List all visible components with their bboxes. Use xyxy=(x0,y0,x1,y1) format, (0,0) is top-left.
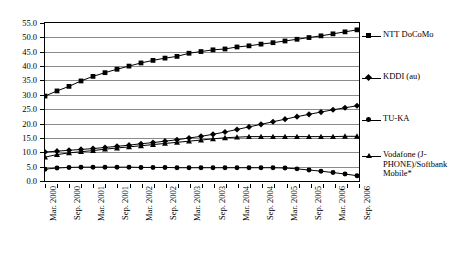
data-point-marker xyxy=(283,39,288,44)
y-tick-label: 0.0 xyxy=(26,177,37,186)
x-tick-label: Mar. 2006 xyxy=(338,186,347,221)
data-point-marker xyxy=(115,67,120,72)
data-point-marker xyxy=(246,124,252,130)
legend-item-3[interactable]: TU-KA xyxy=(362,114,409,125)
data-point-marker xyxy=(318,109,324,115)
data-point-marker xyxy=(343,172,348,177)
data-point-marker xyxy=(258,121,264,127)
data-point-marker xyxy=(211,47,216,52)
data-point-marker xyxy=(55,166,60,171)
data-point-marker xyxy=(139,61,144,66)
data-point-marker xyxy=(55,89,60,94)
x-tick-mark xyxy=(190,184,191,188)
data-point-marker xyxy=(79,79,84,84)
x-tick-mark xyxy=(45,184,46,188)
data-point-marker xyxy=(151,58,156,63)
legend-marker-circle-icon xyxy=(362,115,381,125)
legend-label: NTT DoCoMo xyxy=(381,30,434,40)
data-point-marker xyxy=(187,51,192,56)
data-point-marker xyxy=(45,149,48,155)
data-point-marker xyxy=(247,43,252,48)
legend-marker-triangle-icon xyxy=(362,151,381,161)
data-point-marker xyxy=(45,167,47,172)
y-axis: 0.05.010.015.020.025.030.035.040.045.050… xyxy=(0,22,42,182)
data-point-marker xyxy=(247,165,252,170)
legend-item-1[interactable]: NTT DoCoMo xyxy=(362,30,434,41)
legend-item-2[interactable]: KDDI (au) xyxy=(362,72,420,83)
legend-marker-diamond-icon xyxy=(362,73,381,83)
data-point-marker xyxy=(294,114,300,120)
x-tick-mark xyxy=(311,184,312,188)
data-point-marker xyxy=(103,165,108,170)
data-point-marker xyxy=(127,64,132,69)
data-point-marker xyxy=(175,165,180,170)
x-tick-label: Sep. 2001 xyxy=(121,186,130,220)
data-point-marker xyxy=(91,74,96,79)
data-point-marker xyxy=(331,31,336,36)
data-point-marker xyxy=(235,45,240,50)
x-tick-label: Sep. 2005 xyxy=(314,186,323,220)
data-point-marker xyxy=(355,27,359,32)
x-tick-mark xyxy=(202,184,203,188)
y-tick-label: 55.0 xyxy=(22,19,37,28)
x-tick-label: Sep. 2006 xyxy=(363,186,372,220)
y-tick-label: 30.0 xyxy=(22,91,37,100)
data-point-marker xyxy=(45,94,47,99)
data-point-marker xyxy=(222,129,228,135)
data-point-marker xyxy=(319,169,324,174)
data-point-marker xyxy=(306,111,312,117)
x-axis: Mar. 2000Sep. 2000Mar. 2001Sep. 2001Mar.… xyxy=(44,184,360,254)
x-tick-label: Sep. 2002 xyxy=(169,186,178,220)
y-tick-label: 10.0 xyxy=(22,148,37,157)
data-point-marker xyxy=(354,103,359,109)
data-point-marker xyxy=(163,165,168,170)
x-tick-mark xyxy=(214,184,215,188)
data-point-marker xyxy=(223,47,228,52)
legend-label: Vodafone (J- PHONE)/Softbank Mobile* xyxy=(381,150,447,179)
data-point-marker xyxy=(79,165,84,170)
data-point-marker xyxy=(235,165,240,170)
data-point-marker xyxy=(151,165,156,170)
data-point-marker xyxy=(355,173,359,178)
x-tick-label: Mar. 2004 xyxy=(242,186,251,221)
data-point-marker xyxy=(271,40,276,45)
series-lines xyxy=(45,23,359,182)
data-point-marker xyxy=(270,119,276,125)
x-tick-mark xyxy=(117,184,118,188)
data-point-marker xyxy=(307,35,312,40)
x-tick-label: Mar. 2000 xyxy=(49,186,58,221)
plot-area xyxy=(44,22,360,182)
data-point-marker xyxy=(175,54,180,59)
data-point-marker xyxy=(295,37,300,42)
x-tick-mark xyxy=(69,184,70,188)
data-point-marker xyxy=(223,165,228,170)
x-tick-mark xyxy=(347,184,348,188)
data-point-marker xyxy=(103,70,108,75)
x-tick-mark xyxy=(166,184,167,188)
data-point-marker xyxy=(199,49,204,54)
series-3 xyxy=(45,165,359,179)
data-point-marker xyxy=(127,165,132,170)
data-point-marker xyxy=(211,165,216,170)
series-1 xyxy=(45,27,359,98)
y-tick-label: 20.0 xyxy=(22,119,37,128)
legend-marker-square-icon xyxy=(362,31,381,41)
y-tick-label: 40.0 xyxy=(22,62,37,71)
y-tick-label: 35.0 xyxy=(22,76,37,85)
x-tick-label: Sep. 2000 xyxy=(73,186,82,220)
data-point-marker xyxy=(282,116,288,122)
data-point-marker xyxy=(283,166,288,171)
y-tick-label: 50.0 xyxy=(22,33,37,42)
x-tick-label: Sep. 2003 xyxy=(218,186,227,220)
legend-item-4[interactable]: Vodafone (J- PHONE)/Softbank Mobile* xyxy=(362,150,447,179)
x-tick-mark xyxy=(335,184,336,188)
data-point-marker xyxy=(319,33,324,38)
data-point-marker xyxy=(295,166,300,171)
data-point-marker xyxy=(67,84,72,89)
data-point-marker xyxy=(67,165,72,170)
series-2 xyxy=(45,103,359,155)
data-point-marker xyxy=(199,165,204,170)
legend-label: TU-KA xyxy=(381,114,409,124)
data-point-marker xyxy=(259,42,264,47)
data-point-marker xyxy=(271,165,276,170)
